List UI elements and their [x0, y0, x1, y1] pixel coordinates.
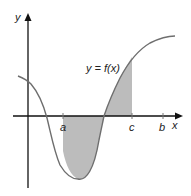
curve-label: y = f(x) [85, 62, 120, 74]
tick-label-b: b [159, 121, 165, 133]
function-curve [18, 36, 175, 179]
graph-canvas: y x a c b y = f(x) [0, 0, 191, 196]
tick-label-c: c [129, 121, 135, 133]
tick-label-a: a [60, 121, 66, 133]
y-axis-label: y [14, 11, 22, 23]
x-axis-label: x [171, 119, 178, 131]
function-graph: y x a c b y = f(x) [0, 0, 191, 196]
y-axis-arrow-icon [25, 13, 32, 21]
